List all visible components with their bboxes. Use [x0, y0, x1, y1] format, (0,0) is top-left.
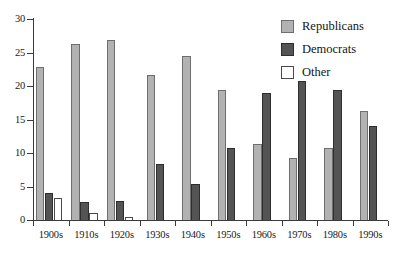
x-axis-tick — [33, 221, 34, 226]
legend-item-rep: Republicans — [281, 16, 391, 36]
y-axis-tick-label-text: 15 — [1, 115, 25, 125]
bar-rep-1950s — [218, 90, 227, 220]
y-axis-tick-label-text: 0 — [1, 215, 25, 225]
bar-dem-1900s — [45, 193, 54, 220]
bar-group — [253, 19, 271, 220]
chart-legend: RepublicansDemocratsOther — [281, 16, 391, 85]
legend-item-label: Other — [302, 66, 330, 79]
x-axis-tick-label: 1990s — [350, 229, 390, 241]
bar-dem-1930s — [156, 164, 165, 220]
bar-dem-1910s — [80, 202, 89, 220]
y-axis-tick-label: 5 — [0, 182, 25, 192]
y-axis-tick-label-text: 20 — [1, 81, 25, 91]
bar-dem-1970s — [298, 81, 307, 220]
y-axis-tick-label-text: 5 — [1, 182, 25, 192]
y-axis-tick-label-text: 30 — [1, 14, 25, 24]
x-axis-tick-label: 1910s — [66, 229, 106, 241]
bar-rep-1970s — [289, 158, 298, 220]
bar-rep-1980s — [324, 148, 333, 220]
bar-dem-1960s — [262, 93, 271, 220]
bar-dem-1920s — [116, 201, 125, 220]
y-axis-tick-label-text: 25 — [1, 48, 25, 58]
x-axis-tick-label: 1920s — [102, 229, 142, 241]
x-axis-tick — [353, 221, 354, 226]
x-axis-tick — [175, 221, 176, 226]
bar-group — [36, 19, 63, 220]
bar-oth-1910s — [89, 213, 98, 220]
x-axis-tick-label: 1950s — [208, 229, 248, 241]
x-axis-tick — [317, 221, 318, 226]
bar-rep-1920s — [107, 40, 116, 220]
x-axis-tick — [246, 221, 247, 226]
legend-swatch-dem-icon — [281, 43, 294, 56]
x-axis-tick — [388, 221, 389, 226]
bar-dem-1980s — [333, 90, 342, 220]
legend-item-dem: Democrats — [281, 39, 391, 59]
legend-swatch-rep-icon — [281, 20, 294, 33]
y-axis-tick-label-text: 10 — [1, 148, 25, 158]
x-axis-tick-label: 1940s — [173, 229, 213, 241]
bar-dem-1990s — [369, 126, 378, 220]
legend-item-oth: Other — [281, 62, 391, 82]
x-axis-tick-label: 1970s — [279, 229, 319, 241]
bar-rep-1990s — [360, 111, 369, 220]
bar-rep-1930s — [147, 75, 156, 220]
bar-group — [71, 19, 98, 220]
bar-oth-1920s — [125, 217, 134, 220]
x-axis-tick-label: 1930s — [137, 229, 177, 241]
x-axis-tick-label: 1980s — [315, 229, 355, 241]
bar-group — [218, 19, 236, 220]
legend-swatch-oth-icon — [281, 66, 294, 79]
bar-dem-1950s — [227, 148, 236, 220]
bar-rep-1940s — [182, 56, 191, 220]
y-axis-tick-label: 30 — [0, 14, 25, 24]
bar-rep-1960s — [253, 144, 262, 220]
y-axis-tick-label: 20 — [0, 81, 25, 91]
y-axis-tick-label: 25 — [0, 48, 25, 58]
legend-item-label: Republicans — [302, 20, 364, 33]
x-axis-tick-label: 1960s — [244, 229, 284, 241]
bar-dem-1940s — [191, 184, 200, 220]
x-axis-tick-label: 1900s — [31, 229, 71, 241]
y-axis-tick-label: 15 — [0, 115, 25, 125]
bar-group — [107, 19, 134, 220]
y-axis-tick-label: 0 — [0, 215, 25, 225]
x-axis-tick — [140, 221, 141, 226]
bar-oth-1900s — [54, 198, 63, 220]
y-axis-tick-label: 10 — [0, 148, 25, 158]
bar-group — [182, 19, 200, 220]
x-axis-tick — [211, 221, 212, 226]
x-axis-tick — [69, 221, 70, 226]
bar-rep-1910s — [71, 44, 80, 220]
legend-item-label: Democrats — [302, 43, 356, 56]
x-axis-tick — [104, 221, 105, 226]
x-axis-tick — [282, 221, 283, 226]
bar-group — [147, 19, 165, 220]
bar-rep-1900s — [36, 67, 45, 220]
bar-chart-figure: 051015202530 1900s1910s1920s1930s1940s19… — [0, 0, 394, 257]
